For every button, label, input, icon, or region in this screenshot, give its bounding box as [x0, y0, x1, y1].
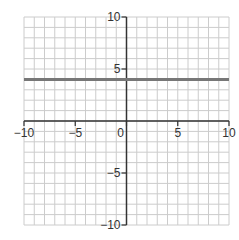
y-tick-label: −5: [107, 166, 121, 180]
x-tick-label: 0: [117, 126, 124, 140]
x-tick-label: 10: [222, 126, 236, 140]
x-tick-label: 5: [174, 126, 181, 140]
y-tick-label: 5: [114, 62, 121, 76]
y-tick-label: −10: [100, 218, 121, 232]
y-tick-label: 10: [107, 10, 121, 24]
x-tick-label: −5: [68, 126, 82, 140]
x-tick-label: −10: [14, 126, 35, 140]
coordinate-plane: −10−50510−10−5510: [0, 0, 239, 240]
